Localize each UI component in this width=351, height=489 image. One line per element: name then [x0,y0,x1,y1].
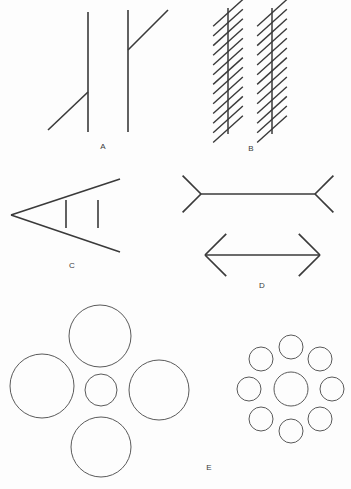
ebbinghaus-left-surround-bottom [71,417,131,477]
muller-lyer-outward-fins-figure [183,176,334,213]
ebbinghaus-left-surround-top [69,305,131,367]
illusion-figure-plate: A B C D E [0,0,351,489]
panel-c-ponzo [11,179,120,252]
panel-b-zollner [213,0,287,143]
ebbinghaus-left-surround-right [129,360,189,420]
panel-e-ebbinghaus [10,305,344,477]
poggendorff-oblique-upper [128,10,168,50]
ebbinghaus-right-surround-e [320,377,344,401]
muller-lyer-fin [315,176,333,194]
ebbinghaus-left-surround-left [10,354,74,418]
panel-label-b: B [241,144,261,153]
panel-label-d: D [252,281,272,290]
ebbinghaus-right-surround-nw [249,347,273,371]
ebbinghaus-right-surround-n [279,335,303,359]
panel-a-poggendorff [48,10,168,132]
ebbinghaus-right-group [237,335,344,443]
ebbinghaus-left-group [10,305,189,477]
panel-label-a: A [93,142,113,151]
ebbinghaus-right-surround-ne [308,347,332,371]
ebbinghaus-right-surround-se [308,407,332,431]
ebbinghaus-right-surround-sw [249,407,273,431]
muller-lyer-fin [183,176,201,194]
muller-lyer-inward-fins-figure [205,234,320,276]
ebbinghaus-right-surround-s [279,419,303,443]
muller-lyer-fin [315,194,333,212]
muller-lyer-fin [205,255,226,276]
muller-lyer-fin [299,255,320,276]
ebbinghaus-right-center-circle [274,372,308,406]
muller-lyer-fin [183,194,201,212]
panel-d-muller-lyer [183,176,334,277]
panel-label-e: E [199,463,219,472]
poggendorff-oblique-lower [48,92,88,130]
ebbinghaus-right-surround-w [237,377,261,401]
ebbinghaus-left-center-circle [85,374,117,406]
muller-lyer-fin [205,234,226,255]
illusion-plate-svg [0,0,351,489]
muller-lyer-fin [299,234,320,255]
panel-label-c: C [62,261,82,270]
